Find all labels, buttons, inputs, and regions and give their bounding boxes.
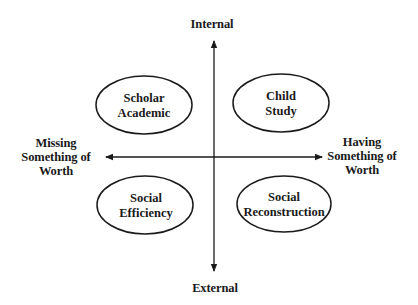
- label-external: External: [192, 281, 238, 295]
- quadrant-text-line: Efficiency: [119, 205, 172, 220]
- quadrant-social-efficiency: Social Efficiency: [119, 191, 172, 220]
- label-left-line-3: Worth: [21, 164, 90, 178]
- quadrant-text-line: Child: [265, 89, 296, 104]
- quadrant-text-line: Academic: [118, 105, 171, 120]
- quadrant-text-line: Social: [243, 190, 324, 205]
- quadrant-child-study: Child Study: [265, 89, 296, 118]
- label-left-line-1: Missing: [21, 136, 90, 150]
- quadrant-social-reconstruction: Social Reconstruction: [243, 190, 324, 219]
- quadrant-text-line: Reconstruction: [243, 204, 324, 219]
- label-right-line-1: Having: [327, 135, 396, 149]
- label-missing-something-of-worth: Missing Something of Worth: [21, 136, 90, 178]
- label-right-line-3: Worth: [327, 163, 396, 177]
- label-left-line-2: Something of: [21, 150, 90, 164]
- label-internal: Internal: [191, 17, 234, 31]
- label-right-line-2: Something of: [327, 149, 396, 163]
- quadrant-text-line: Study: [265, 103, 296, 118]
- quadrant-scholar-academic: Scholar Academic: [118, 91, 171, 120]
- quadrant-text-line: Scholar: [118, 91, 171, 106]
- label-having-something-of-worth: Having Something of Worth: [327, 135, 396, 177]
- quadrant-text-line: Social: [119, 191, 172, 206]
